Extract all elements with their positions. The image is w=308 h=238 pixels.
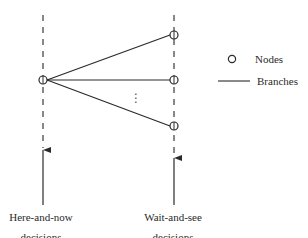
stage-label-line-1: Here-and-now: [0, 210, 82, 224]
branch-scenario-1: [47, 35, 170, 80]
legend-label-branches: Branches: [257, 74, 298, 88]
stage-label-line-2: decisions: [0, 230, 82, 238]
legend-node-icon: [228, 55, 235, 62]
branch-scenario-n: [47, 80, 170, 126]
scenario-tree-diagram: ⋮: [0, 0, 308, 238]
legend: [218, 55, 250, 81]
scenario-ellipsis: ⋮: [130, 91, 142, 105]
branches: [47, 35, 170, 126]
stage-label-wait-and-see: Wait-and-see decisions: [132, 210, 214, 238]
stage-label-line-1: Wait-and-see: [132, 210, 214, 224]
legend-label-nodes: Nodes: [255, 52, 283, 66]
node-scenario-n: [170, 122, 178, 130]
node-scenario-1: [170, 31, 178, 39]
stage-label-line-2: decisions: [132, 230, 214, 238]
node-root: [39, 76, 47, 84]
stage-label-here-and-now: Here-and-now decisions: [0, 210, 82, 238]
node-scenario-2: [170, 76, 178, 84]
